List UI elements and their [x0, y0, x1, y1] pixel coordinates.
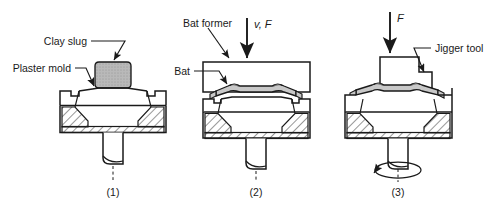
panel-1-caption: (1) — [107, 186, 120, 198]
jigger-tool-shape — [380, 57, 432, 88]
bat-label: Bat — [174, 65, 190, 77]
figure-canvas: Clay slug Plaster mold (1) — [0, 0, 500, 206]
panel-1: Clay slug Plaster mold (1) — [13, 35, 166, 198]
panel-2-caption: (2) — [250, 186, 263, 198]
spindle-shape-3 — [388, 139, 408, 183]
plaster-mold-label: Plaster mold — [13, 62, 72, 74]
plaster-mold-leader — [75, 68, 94, 86]
clay-slug-shape — [95, 62, 131, 88]
plaster-mold-shape — [60, 88, 166, 133]
panel-3-caption: (3) — [392, 186, 405, 198]
panel-2: v, F Bat former Bat (2) — [174, 17, 310, 198]
jigger-tool-label: Jigger tool — [435, 42, 483, 54]
force-label-2: v, F — [254, 18, 273, 30]
clay-slug-label: Clay slug — [44, 35, 87, 47]
panel-3: F Jigger tool (3) — [345, 12, 483, 198]
jiggering-process-diagram: Clay slug Plaster mold (1) — [0, 0, 500, 206]
clay-slug-leader — [91, 41, 125, 60]
force-label-3: F — [397, 12, 405, 24]
bat-former-leader — [208, 28, 229, 58]
spindle-shape-2 — [246, 139, 266, 183]
plaster-mold-shape-2 — [203, 97, 310, 139]
plaster-mold-shape-3 — [345, 88, 452, 139]
bat-former-label: Bat former — [183, 17, 233, 29]
spindle-shape — [103, 133, 123, 181]
